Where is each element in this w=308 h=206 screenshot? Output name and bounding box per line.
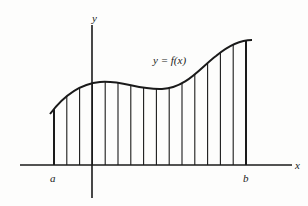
function-label: y = f(x) [152, 54, 186, 67]
y-axis-label: y [91, 12, 97, 24]
upper-bound-label: b [243, 172, 249, 184]
function-curve [50, 40, 252, 114]
riemann-sum-diagram: y x y = f(x) a b [0, 0, 308, 206]
lower-bound-label: a [50, 172, 56, 184]
x-axis-label: x [294, 159, 300, 171]
diagram-canvas: y x y = f(x) a b [0, 0, 308, 206]
